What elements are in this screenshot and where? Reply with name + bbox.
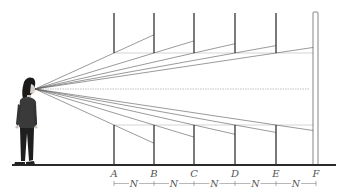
pole-label-f: F — [312, 168, 321, 179]
sight-line-upper — [35, 47, 313, 89]
pole-f — [313, 12, 318, 165]
spacing-label: N — [169, 178, 179, 189]
sight-line-upper — [35, 46, 276, 89]
sight-line-lower — [35, 89, 235, 134]
poles — [114, 12, 318, 165]
spacing-label: N — [209, 178, 219, 189]
spacing-label: N — [129, 178, 139, 189]
sight-line-upper — [35, 35, 154, 89]
pole-label-d: D — [230, 168, 239, 179]
pants — [20, 128, 34, 161]
sight-line-lower — [35, 89, 154, 143]
sight-line-upper — [35, 44, 235, 89]
pole-label-e: E — [271, 168, 280, 179]
spacing-label: N — [250, 178, 260, 189]
pole-label-c: C — [190, 168, 198, 179]
sight-line-lower — [35, 89, 276, 132]
observer-figure — [14, 78, 38, 166]
pole-label-b: B — [149, 168, 157, 179]
spacing-dimensions: NNNNN — [114, 178, 316, 189]
sight-line-lower — [35, 89, 313, 131]
spacing-label: N — [291, 178, 301, 189]
pole-label-a: A — [109, 168, 117, 179]
perspective-diagram: ABCDEF NNNNN — [0, 0, 348, 195]
